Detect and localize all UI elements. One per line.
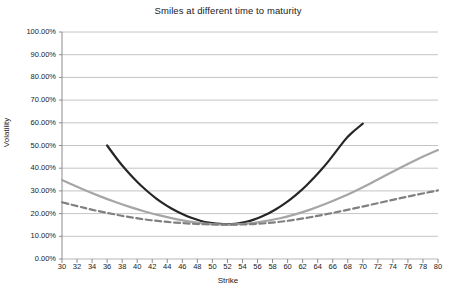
x-tick-label: 64 xyxy=(310,262,326,271)
y-tick-label: 30.00% xyxy=(10,186,56,195)
y-tick-label: 20.00% xyxy=(10,209,56,218)
y-tick-label: 10.00% xyxy=(10,231,56,240)
x-tick-label: 70 xyxy=(355,262,371,271)
x-tick-label: 58 xyxy=(265,262,281,271)
x-tick-label: 56 xyxy=(250,262,266,271)
x-tick-label: 46 xyxy=(174,262,190,271)
x-tick-label: 42 xyxy=(144,262,160,271)
x-tick-label: 62 xyxy=(295,262,311,271)
x-tick-label: 76 xyxy=(400,262,416,271)
plot-area xyxy=(0,0,456,299)
y-tick-label: 40.00% xyxy=(10,163,56,172)
series-line-long-maturity-smile xyxy=(62,190,438,224)
y-tick-label: 50.00% xyxy=(10,141,56,150)
x-tick-label: 44 xyxy=(159,262,175,271)
x-tick-label: 74 xyxy=(385,262,401,271)
x-tick-label: 52 xyxy=(219,262,235,271)
y-tick-label: 90.00% xyxy=(10,50,56,59)
series-line-short-maturity-smile xyxy=(107,124,363,224)
x-tick-label: 34 xyxy=(84,262,100,271)
x-tick-label: 72 xyxy=(370,262,386,271)
x-tick-label: 78 xyxy=(415,262,431,271)
x-tick-label: 66 xyxy=(325,262,341,271)
x-tick-label: 68 xyxy=(340,262,356,271)
x-tick-label: 48 xyxy=(189,262,205,271)
x-tick-label: 36 xyxy=(99,262,115,271)
x-tick-label: 80 xyxy=(430,262,446,271)
x-tick-label: 40 xyxy=(129,262,145,271)
x-tick-label: 60 xyxy=(280,262,296,271)
y-tick-label: 0.00% xyxy=(10,254,56,263)
y-tick-label: 70.00% xyxy=(10,95,56,104)
x-tick-label: 54 xyxy=(234,262,250,271)
x-tick-label: 38 xyxy=(114,262,130,271)
y-tick-label: 100.00% xyxy=(10,27,56,36)
y-tick-label: 60.00% xyxy=(10,118,56,127)
volatility-smile-chart: Smiles at different time to maturity Vol… xyxy=(0,0,456,299)
x-tick-label: 50 xyxy=(204,262,220,271)
y-tick-label: 80.00% xyxy=(10,72,56,81)
x-tick-label: 30 xyxy=(54,262,70,271)
x-tick-label: 32 xyxy=(69,262,85,271)
